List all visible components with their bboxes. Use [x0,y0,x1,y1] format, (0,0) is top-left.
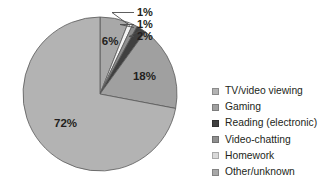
slice-callout-label: 1% [137,6,153,18]
legend-item[interactable]: Reading (electronic) [212,115,334,131]
legend-item-label: Video-chatting [225,135,291,145]
pie-slice-group [23,17,177,171]
pie-chart-figure: 6%18%72%1%1%2% TV/video viewing Gaming R… [0,0,334,184]
legend-item-label: Gaming [225,102,261,112]
legend-item-label: TV/video viewing [225,86,303,96]
slice-value-label: 6% [102,35,119,47]
slice-value-label: 18% [133,70,156,82]
legend-swatch-icon [212,136,219,143]
legend-item[interactable]: Homework [212,148,334,164]
legend-item[interactable]: Gaming [212,99,334,115]
slice-value-label: 72% [54,117,77,129]
legend-swatch-icon [212,88,219,95]
legend-swatch-icon [212,152,219,159]
legend-swatch-icon [212,120,219,127]
legend-item-label: Homework [225,151,274,161]
legend-item[interactable]: TV/video viewing [212,83,334,99]
legend-item-label: Reading (electronic) [225,118,317,128]
slice-callout-label: 2% [137,30,153,42]
chart-legend: TV/video viewing Gaming Reading (electro… [212,83,334,180]
legend-item[interactable]: Video-chatting [212,132,334,148]
legend-item[interactable]: Other/unknown [212,164,334,180]
slice-callout-label: 1% [137,18,153,30]
legend-item-label: Other/unknown [225,167,295,177]
legend-swatch-icon [212,169,219,176]
legend-swatch-icon [212,104,219,111]
